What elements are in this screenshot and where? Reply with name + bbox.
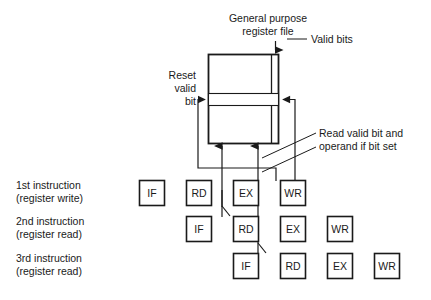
row2-connector-diagonal	[222, 206, 230, 216]
stage-box-row3-rd[interactable]: RD	[281, 254, 306, 279]
pipeline-row-3: IF RD EX WR	[234, 254, 400, 279]
stage-label-row3-rd: RD	[285, 260, 301, 272]
stage-label-row2-wr: WR	[331, 223, 349, 235]
register-file	[209, 55, 279, 144]
register-file-title-line1: General purpose	[229, 12, 307, 24]
stage-box-row2-wr[interactable]: WR	[328, 217, 353, 242]
stage-label-row2-rd: RD	[238, 223, 254, 235]
reset-valid-bit-label-line1: Reset	[169, 69, 197, 81]
reset-valid-bit-label-line3: bit	[185, 95, 196, 107]
row1-label-line2: (register write)	[16, 192, 83, 204]
stage-box-row2-if[interactable]: IF	[187, 217, 212, 242]
stage-label-row1-wr: WR	[284, 187, 302, 199]
stage-box-row2-ex[interactable]: EX	[281, 217, 306, 242]
reset-valid-bit-label-line2: valid	[174, 82, 196, 94]
stage-box-row1-wr[interactable]: WR	[281, 181, 306, 206]
row2-label-line2: (register read)	[16, 228, 82, 240]
read-valid-bit-label-line2: operand if bit set	[319, 140, 397, 152]
register-file-title: General purpose register file	[229, 12, 307, 37]
row2-label-line1: 2nd instruction	[16, 215, 84, 227]
stage-label-row3-wr: WR	[378, 260, 396, 272]
pipeline-register-file-diagram: General purpose register file Valid bits…	[0, 0, 431, 300]
row-label-1st-instruction: 1st instruction (register write)	[16, 179, 83, 204]
valid-bits-label: Valid bits	[311, 33, 353, 45]
stage-box-row1-ex[interactable]: EX	[234, 181, 259, 206]
row3-connector-diagonal	[258, 243, 266, 253]
stage-box-row1-if[interactable]: IF	[140, 181, 165, 206]
stage-box-row1-rd[interactable]: RD	[187, 181, 212, 206]
row3-label-line2: (register read)	[16, 265, 82, 277]
stage-label-row1-if: IF	[147, 187, 156, 199]
stage-label-row1-rd: RD	[191, 187, 207, 199]
stage-label-row2-ex: EX	[286, 223, 300, 235]
reset-valid-bit-annotation: Reset valid bit	[169, 69, 197, 107]
stage-label-row1-ex: EX	[239, 187, 253, 199]
read-valid-bit-leader-lower	[262, 147, 316, 172]
register-file-title-line2: register file	[242, 25, 294, 37]
stage-label-row3-if: IF	[241, 260, 250, 272]
row3-label-line1: 3rd instruction	[16, 252, 82, 264]
stage-box-row2-rd[interactable]: RD	[234, 217, 259, 242]
row1-label-line1: 1st instruction	[16, 179, 81, 191]
read-valid-bit-annotation: Read valid bit and operand if bit set	[262, 127, 403, 172]
stage-box-row3-if[interactable]: IF	[234, 254, 259, 279]
stage-box-row3-ex[interactable]: EX	[328, 254, 353, 279]
register-row-band	[209, 94, 279, 106]
stage-box-row3-wr[interactable]: WR	[375, 254, 400, 279]
pipeline-row-2: IF RD EX WR	[187, 217, 353, 242]
read-valid-bit-label-line1: Read valid bit and	[319, 127, 403, 139]
stage-label-row2-if: IF	[194, 223, 203, 235]
read-valid-bit-right-connector	[283, 100, 295, 181]
row-label-3rd-instruction: 3rd instruction (register read)	[16, 252, 82, 277]
stage-label-row3-ex: EX	[333, 260, 347, 272]
row-label-2nd-instruction: 2nd instruction (register read)	[16, 215, 84, 240]
diagram-canvas: General purpose register file Valid bits…	[0, 0, 431, 300]
